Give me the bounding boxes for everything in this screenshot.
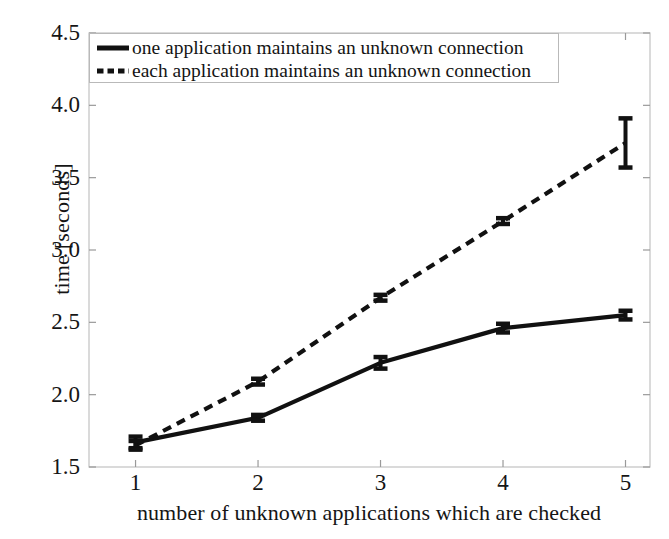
dashed-line-swatch <box>96 64 130 78</box>
legend-entry-0: one application maintains an unknown con… <box>96 36 554 59</box>
solid-line-swatch <box>96 41 130 55</box>
chart-figure: time [seconds] 1.52.02.53.03.54.04.5 123… <box>0 0 669 539</box>
legend-label-1: each application maintains an unknown co… <box>132 61 531 81</box>
legend-entry-1: each application maintains an unknown co… <box>96 59 554 82</box>
error-bar-1-1 <box>251 379 265 385</box>
series-line-0 <box>136 315 626 442</box>
error-bar-1-4 <box>619 118 633 167</box>
x-axis-label: number of unknown applications which are… <box>88 500 650 526</box>
error-bar-1-3 <box>496 218 510 224</box>
chart-legend: one application maintains an unknown con… <box>89 33 559 83</box>
error-bar-1-0 <box>129 441 143 450</box>
error-bar-1-2 <box>374 295 388 301</box>
plot-frame <box>89 33 650 467</box>
legend-label-0: one application maintains an unknown con… <box>132 38 524 58</box>
